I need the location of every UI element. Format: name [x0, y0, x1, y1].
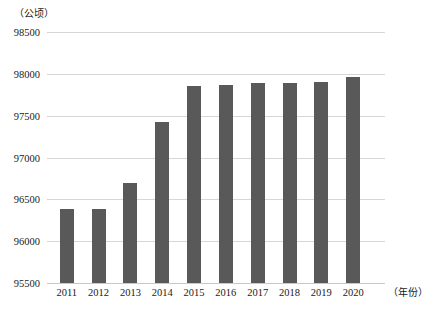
y-axis-tick-label: 97000: [14, 152, 40, 163]
x-axis-tick-label: 2015: [184, 286, 205, 300]
bar: [155, 122, 169, 283]
x-axis-tick-label: 2019: [311, 286, 332, 300]
bar: [346, 77, 360, 283]
bar: [60, 209, 74, 283]
bar: [283, 83, 297, 283]
plot-area: 95500960009650097000975009800098500: [47, 32, 385, 283]
gridline: 95500: [47, 283, 385, 284]
bar: [92, 209, 106, 283]
bar: [251, 83, 265, 283]
x-axis-tick-label: 2020: [343, 286, 364, 300]
x-axis-tick-labels: 2011201220132014201520162017201820192020: [47, 286, 385, 304]
y-axis-tick-label: 96000: [14, 236, 40, 247]
x-axis-tick-label: 2017: [247, 286, 268, 300]
y-axis-tick-label: 97500: [14, 110, 40, 121]
x-axis-tick-label: 2013: [120, 286, 141, 300]
y-axis-tick-label: 98000: [14, 68, 40, 79]
x-axis-tick-label: 2016: [215, 286, 236, 300]
x-axis-tick-label: 2014: [152, 286, 173, 300]
y-axis-tick-label: 96500: [14, 194, 40, 205]
bars-layer: [47, 32, 385, 283]
bar: [219, 85, 233, 283]
bar: [187, 86, 201, 283]
y-axis-tick-label: 98500: [14, 27, 40, 38]
x-axis-tick-label: 2012: [88, 286, 109, 300]
bar: [314, 82, 328, 283]
x-axis-tick-label: 2018: [279, 286, 300, 300]
y-axis-tick-label: 95500: [14, 278, 40, 289]
x-axis-tick-label: 2011: [56, 286, 77, 300]
y-axis-unit-label: （公顷）: [14, 8, 54, 20]
x-axis-title: （年份）: [388, 286, 426, 300]
bar: [123, 183, 137, 283]
